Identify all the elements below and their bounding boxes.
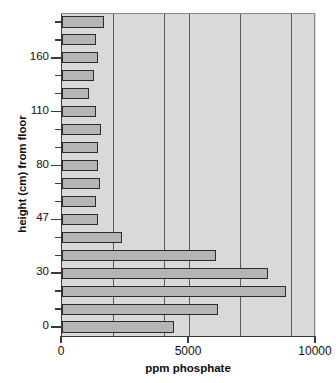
bar <box>62 196 96 207</box>
y-axis-tick-minor <box>55 255 61 256</box>
y-axis-tick-label: 47 <box>36 211 49 223</box>
x-axis-tick <box>314 336 315 343</box>
y-axis-tick-minor <box>55 75 61 76</box>
y-axis-title: height (cm) from floor <box>16 84 28 264</box>
y-axis-tick-label: 30 <box>36 265 49 277</box>
x-axis-tick <box>187 336 188 343</box>
x-axis-tick-label: 5000 <box>148 344 228 358</box>
y-axis-tick-label: 80 <box>36 158 49 170</box>
bar <box>62 232 122 243</box>
bar <box>62 321 174 332</box>
y-axis-tick-minor <box>55 201 61 202</box>
y-axis-tick-major <box>51 326 61 327</box>
y-axis-tick-minor <box>55 308 61 309</box>
bar <box>62 88 89 99</box>
y-axis-tick-major <box>51 57 61 58</box>
y-axis-tick-minor <box>55 147 61 148</box>
x-axis-title: ppm phosphate <box>61 362 315 374</box>
bar <box>62 124 101 135</box>
bar <box>62 70 94 81</box>
bar <box>62 268 268 279</box>
y-axis-tick-minor <box>55 237 61 238</box>
y-axis-tick-label: 160 <box>30 50 49 62</box>
bar <box>62 16 104 27</box>
y-axis-tick-minor <box>55 290 61 291</box>
y-axis-tick-minor <box>55 21 61 22</box>
bar <box>62 178 100 189</box>
y-axis-tick-major <box>51 272 61 273</box>
x-axis-tick-label: 0 <box>21 344 101 358</box>
y-axis-tick-major <box>51 165 61 166</box>
y-axis-tick-label: 0 <box>43 319 49 331</box>
plot-area <box>61 13 316 337</box>
y-axis-tick-minor <box>55 129 61 130</box>
y-axis-tick-minor <box>55 39 61 40</box>
bar <box>62 106 96 117</box>
y-axis-tick-label: 110 <box>31 104 49 116</box>
bar-chart: height (cm) from floor ppm phosphate 160… <box>0 0 336 383</box>
bar <box>62 214 98 225</box>
y-axis-tick-major <box>51 111 61 112</box>
x-axis-tick <box>60 336 61 343</box>
x-axis-tick-label: 10000 <box>275 344 336 358</box>
bar <box>62 250 216 261</box>
bar <box>62 286 286 297</box>
bar <box>62 142 98 153</box>
gridline-vertical <box>291 13 292 336</box>
bar <box>62 304 218 315</box>
y-axis-tick-minor <box>55 183 61 184</box>
bar <box>62 160 98 171</box>
bar <box>62 34 96 45</box>
y-axis-tick-minor <box>55 93 61 94</box>
bar <box>62 52 98 63</box>
y-axis-tick-major <box>51 219 61 220</box>
